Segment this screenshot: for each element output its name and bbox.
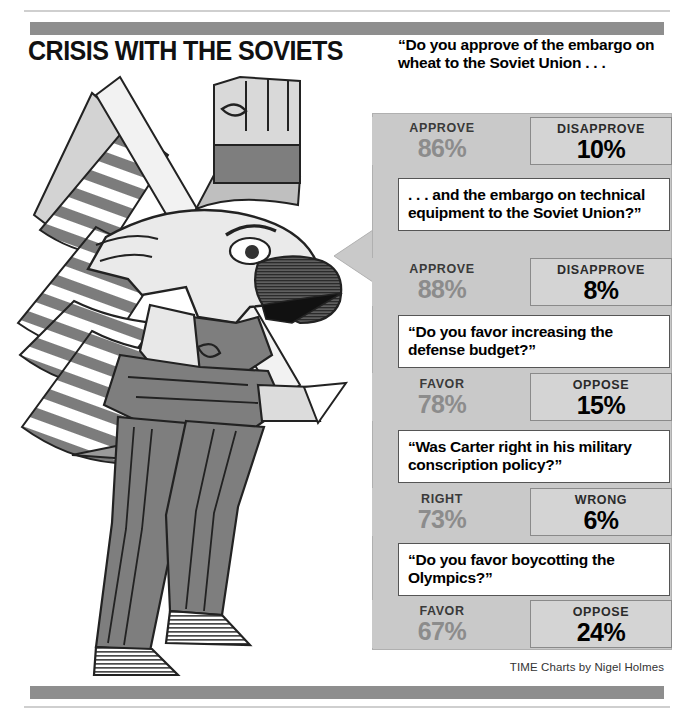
- result-cell-right-4: OPPOSE 24%: [530, 600, 672, 648]
- result-cell-right-0: DISAPPROVE 10%: [530, 117, 672, 165]
- result-cell-left-3: RIGHT 73%: [372, 488, 512, 536]
- question-text-2: “Do you favor increasing the defense bud…: [398, 315, 670, 368]
- result-label-right-0: DISAPPROVE: [531, 122, 671, 136]
- result-value-left-1: 88%: [372, 277, 512, 302]
- leg-front: [166, 421, 264, 615]
- result-value-left-2: 78%: [372, 392, 512, 417]
- result-cell-left-4: FAVOR 67%: [372, 600, 512, 648]
- bottom-grey-bar: [30, 686, 664, 699]
- top-hat-band: [214, 143, 300, 183]
- result-label-left-0: APPROVE: [372, 121, 512, 135]
- result-value-left-3: 73%: [372, 507, 512, 532]
- result-label-right-2: OPPOSE: [531, 378, 671, 392]
- result-label-left-3: RIGHT: [372, 492, 512, 506]
- result-value-right-0: 10%: [531, 137, 671, 162]
- result-cell-right-1: DISAPPROVE 8%: [530, 258, 672, 306]
- result-value-right-3: 6%: [531, 508, 671, 533]
- question-text-4: “Do you favor boycotting the Olympics?”: [398, 543, 670, 596]
- result-cell-left-0: APPROVE 86%: [372, 117, 512, 165]
- question-text-1: . . . and the embargo on technical equip…: [398, 178, 670, 231]
- credit-line: TIME Charts by Nigel Holmes: [510, 661, 664, 673]
- question-text-0: “Do you approve of the embargo on wheat …: [398, 36, 674, 72]
- bottom-hairline-rule: [24, 706, 670, 708]
- top-grey-bar: [30, 22, 664, 35]
- result-cell-right-3: WRONG 6%: [530, 488, 672, 536]
- uncle-sam-eagle-illustration: [0, 55, 375, 680]
- result-cell-right-2: OPPOSE 15%: [530, 373, 672, 421]
- top-hairline-rule: [24, 10, 670, 12]
- result-label-left-1: APPROVE: [372, 262, 512, 276]
- eagle-pupil: [245, 245, 259, 259]
- result-label-left-4: FAVOR: [372, 604, 512, 618]
- result-value-left-0: 86%: [372, 136, 512, 161]
- shoe-front: [166, 611, 250, 645]
- speech-bubble-tail: [332, 228, 376, 284]
- shoe-back: [94, 647, 178, 675]
- result-value-right-1: 8%: [531, 278, 671, 303]
- result-label-left-2: FAVOR: [372, 377, 512, 391]
- result-label-right-4: OPPOSE: [531, 605, 671, 619]
- result-label-right-3: WRONG: [531, 493, 671, 507]
- result-value-right-2: 15%: [531, 393, 671, 418]
- result-value-left-4: 67%: [372, 619, 512, 644]
- question-text-3: “Was Carter right in his military conscr…: [398, 430, 670, 483]
- result-cell-left-1: APPROVE 88%: [372, 258, 512, 306]
- result-value-right-4: 24%: [531, 620, 671, 645]
- result-label-right-1: DISAPPROVE: [531, 263, 671, 277]
- result-cell-left-2: FAVOR 78%: [372, 373, 512, 421]
